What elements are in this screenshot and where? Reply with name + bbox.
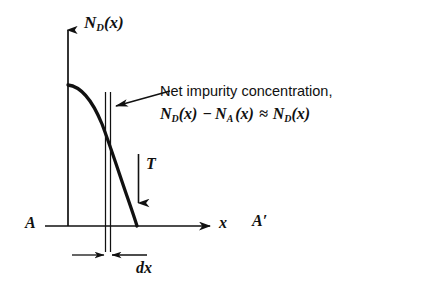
minus-operator: − (197, 105, 215, 122)
nd-first: N (160, 105, 172, 122)
net-impurity-annotation-line1: Net impurity concentration, (160, 84, 332, 99)
cross-section-label-a: A (25, 215, 36, 231)
nd-second-arg: (x) (291, 105, 310, 122)
approx-operator: ≈ (254, 105, 273, 122)
na-term-arg: (x) (233, 105, 254, 122)
y-axis-label-arg: (x) (104, 13, 124, 32)
y-axis-label: ND(x) (84, 14, 124, 34)
nd-second: N (273, 105, 285, 122)
dx-label: dx (136, 260, 152, 276)
impurity-concentration-curve (68, 85, 137, 226)
cross-section-label-a-prime: A′ (252, 213, 267, 229)
x-axis-label: x (219, 215, 227, 231)
thickness-label-T: T (146, 156, 156, 172)
na-term: N (215, 105, 227, 122)
y-axis-label-sub: D (96, 22, 104, 33)
diagram-canvas (0, 0, 424, 284)
y-axis-label-n: N (84, 13, 96, 32)
nd-first-sub: D (172, 113, 179, 124)
net-impurity-annotation-line2: ND(x)−NA(x)≈ND(x) (160, 106, 310, 124)
nd-first-arg: (x) (179, 105, 198, 122)
figure-container: ND(x) Net impurity concentration, ND(x)−… (0, 0, 424, 284)
